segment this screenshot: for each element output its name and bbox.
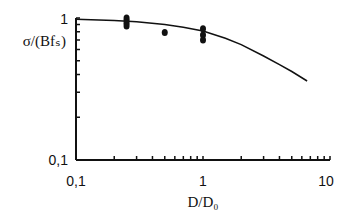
chart: 1 0,1 0,1 1 10 D/D₀ σ/(Bfₛ) [0,0,353,218]
y-tick-1: 1 [60,11,68,27]
y-tick-0.1: 0,1 [49,152,69,168]
x-tick-0.1: 0,1 [66,173,86,189]
model-curve [76,19,307,81]
x-tick-1: 1 [199,173,207,189]
x-tick-10: 10 [318,173,334,189]
y-axis-title: σ/(Bfₛ) [23,33,66,50]
x-axis-title: D/D₀ [187,194,218,210]
